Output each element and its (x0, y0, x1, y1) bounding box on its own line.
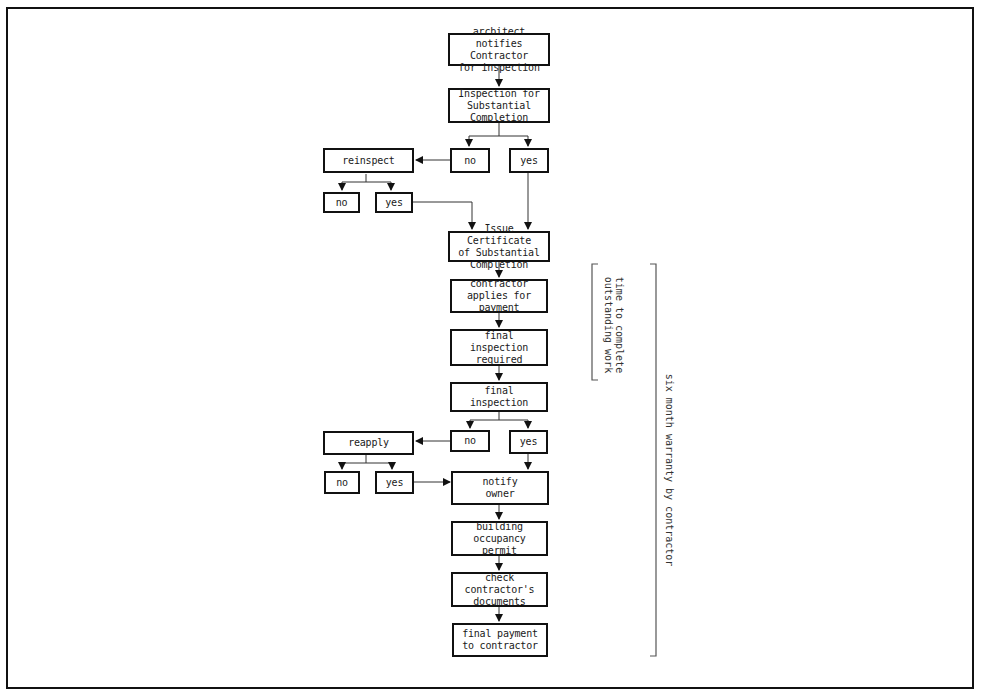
flowchart-page: arcbitect notifies Contractor for inspec… (0, 0, 990, 698)
node-decision2-yes: yes (509, 430, 548, 454)
node-inspection-substantial: Inspection for Substantial Completion (448, 88, 550, 123)
bracket-warranty (650, 264, 656, 656)
node-decision2-no: no (450, 430, 490, 452)
node-reinspect-yes: yes (375, 192, 413, 213)
node-reapply: reapply (323, 431, 414, 455)
node-notify-owner: notify owner (451, 471, 549, 505)
node-check-documents: check contractor's documents (451, 572, 548, 607)
node-final-payment: final payment to contractor (452, 623, 548, 657)
node-reinspect-no: no (323, 192, 360, 213)
node-architect-notifies: arcbitect notifies Contractor for inspec… (448, 33, 550, 66)
node-reinspect: reinspect (323, 148, 414, 173)
node-decision1-yes: yes (509, 148, 549, 173)
node-reapply-no: no (324, 471, 360, 494)
label-outstanding-work: time to complete outstanding work (603, 270, 625, 380)
node-contractor-applies: contractor applies for payment (450, 279, 548, 313)
node-issue-certificate: Issue Certificate of Substantial Complet… (448, 231, 550, 262)
node-building-permit: building occupancy permit (451, 521, 548, 556)
label-warranty: six month warranty by contractor (664, 370, 675, 570)
bracket-outstanding-work (592, 264, 598, 380)
node-final-inspection-required: final inspection required (450, 329, 548, 366)
node-final-inspection: final inspection (450, 382, 548, 412)
node-decision1-no: no (450, 148, 490, 173)
node-reapply-yes: yes (375, 471, 414, 494)
